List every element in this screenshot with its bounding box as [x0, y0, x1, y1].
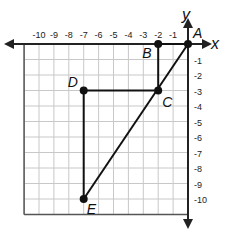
- point-E-label: E: [87, 201, 97, 217]
- y-tick-label: -1: [194, 56, 202, 66]
- y-axis-down-arrow-icon: [183, 219, 193, 229]
- x-tick-label: -8: [65, 30, 73, 40]
- y-tick-label: -5: [194, 118, 202, 128]
- grid-lines: [24, 44, 188, 215]
- point-B-dot: [154, 40, 162, 48]
- axes: [4, 18, 212, 229]
- point-C-dot: [154, 87, 162, 95]
- y-tick-label: -4: [194, 102, 202, 112]
- x-tick-label: -6: [95, 30, 103, 40]
- x-tick-label: -2: [154, 30, 162, 40]
- y-tick-label: -6: [194, 133, 202, 143]
- y-axis-label: y: [181, 6, 191, 23]
- x-tick-label: -7: [80, 30, 88, 40]
- y-tick-label: -9: [194, 180, 202, 190]
- y-tick-label: -2: [194, 71, 202, 81]
- y-tick-label: -7: [194, 149, 202, 159]
- x-axis-left-arrow-icon: [4, 39, 14, 49]
- point-A-label: A: [192, 25, 202, 41]
- y-tick-label: -10: [194, 195, 207, 205]
- point-B-label: B: [142, 45, 151, 61]
- x-tick-label: -1: [169, 30, 177, 40]
- point-D-dot: [80, 87, 88, 95]
- point-D-label: D: [68, 74, 78, 90]
- x-tick-label: -5: [109, 30, 117, 40]
- x-tick-label: -3: [139, 30, 147, 40]
- point-C-label: C: [162, 94, 173, 110]
- x-tick-label: -10: [32, 30, 45, 40]
- point-A-dot: [184, 40, 192, 48]
- x-axis-label: x: [210, 35, 220, 52]
- y-tick-label: -3: [194, 87, 202, 97]
- coordinate-grid: -10-9-8-7-6-5-4-3-2-1-1-2-3-4-5-6-7-8-9-…: [0, 0, 226, 230]
- y-tick-label: -8: [194, 164, 202, 174]
- x-tick-label: -4: [124, 30, 132, 40]
- x-tick-label: -9: [50, 30, 58, 40]
